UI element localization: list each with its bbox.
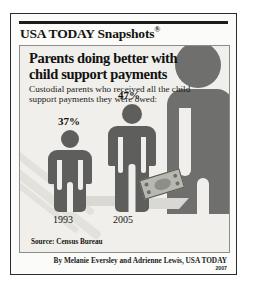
registered-trademark-icon: ® [154,25,160,34]
dollar-bill-corner [144,182,149,187]
person-head [61,130,79,148]
person-leg-gap [129,164,136,212]
large-person-arm-gap [179,108,191,176]
category-label-2005: 2005 [113,214,133,225]
brand-rule-divider [19,21,228,24]
usa-today-snapshot-card: USA TODAY Snapshots® Parents doing bette… [10,13,237,275]
person-arm-gap-left [57,160,62,190]
source-attribution: Source: Census Bureau [31,238,103,246]
chart-subtitle: Custodial parents who received all the c… [29,84,205,105]
person-leg-gap [67,182,73,212]
dollar-bill-corner [146,190,151,195]
person-arm-gap-right [141,137,146,173]
copyright-year: 2007 [215,265,227,271]
brand-title-text: USA TODAY Snapshots [20,26,154,41]
large-person-leg-gap [197,178,209,226]
dollar-bill-oval [153,176,172,191]
person-torso [108,126,156,166]
value-label-1993: 37% [58,115,80,127]
person-arm-gap-right [78,160,83,190]
dollar-bill-corner [173,173,178,178]
category-label-1993: 1993 [53,214,73,225]
person-arm-gap-left [118,137,123,173]
person-torso [48,150,92,184]
chart-headline: Parents doing better with child support … [29,51,207,82]
person-head [122,104,142,124]
dollar-bill-corner [175,181,180,186]
brand-title: USA TODAY Snapshots® [20,25,160,42]
byline-credit: By Melanie Eversley and Adrienne Lewis, … [54,256,227,265]
illustration-panel: Parents doing better with child support … [19,45,230,253]
person-figure-icon-1993 [48,130,92,212]
